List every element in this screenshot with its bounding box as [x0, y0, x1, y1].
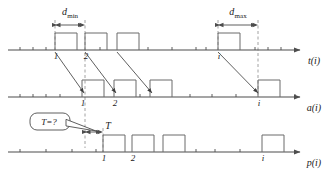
pulse-index-label: i: [258, 98, 261, 108]
dimension-arrowhead-left: [218, 23, 224, 27]
pulse-index-label: i: [262, 153, 265, 163]
diagram-canvas: 12it(i)12ia(i)12ip(i) dmindmaxT T=?: [0, 0, 328, 173]
mapping-arrow: [85, 52, 116, 93]
dimension-d_min: dmin: [55, 6, 85, 27]
pulse-index-label: 1: [102, 153, 107, 163]
mapping-arrow: [55, 52, 84, 93]
dimension-arrowhead-right: [80, 23, 86, 27]
pulse: [114, 80, 136, 97]
pulse: [85, 33, 107, 50]
pulse-index-label: 1: [81, 98, 86, 108]
pulse: [103, 135, 125, 152]
axis-p: 12ip(i): [8, 135, 322, 169]
axis-a: 12ia(i): [8, 80, 322, 114]
axes-group: 12it(i)12ia(i)12ip(i): [8, 33, 322, 169]
axis-t: 12it(i): [8, 33, 321, 67]
axis-label-a: a(i): [307, 102, 322, 114]
pulse: [117, 33, 139, 50]
dimension-arrowhead-left: [55, 23, 61, 27]
dimension-T: T: [85, 120, 112, 134]
pulse-index-label: 2: [131, 153, 136, 163]
pulse: [218, 33, 240, 50]
axis-label-p: p(i): [306, 157, 322, 169]
dimension-arrowhead-right: [98, 130, 104, 134]
timing-diagram-figure: 12it(i)12ia(i)12ip(i) dmindmaxT T=?: [0, 0, 328, 173]
dimension-arrowhead-right: [253, 23, 259, 27]
pulse: [262, 135, 284, 152]
pulse: [258, 80, 280, 97]
dimension-d_max: dmax: [218, 6, 258, 27]
pulse: [163, 135, 185, 152]
callout-group: T=?: [30, 113, 96, 131]
dimension-group: dmindmaxT: [55, 6, 258, 134]
callout-tail: [66, 119, 96, 131]
mapping-arrow: [218, 52, 258, 93]
pulse-index-label: 2: [113, 98, 118, 108]
dimension-label-d_min: dmin: [62, 6, 79, 20]
callout-text: T=?: [41, 117, 57, 127]
dimension-arrowhead-left: [85, 130, 91, 134]
axis-label-t: t(i): [308, 55, 321, 67]
pulse: [55, 33, 77, 50]
dimension-label-d_max: dmax: [229, 6, 247, 20]
dimension-label-T: T: [105, 120, 112, 131]
pulse: [132, 135, 154, 152]
callout-bubble: T=?: [30, 113, 96, 131]
mapping-arrow: [117, 52, 152, 93]
pulse: [150, 80, 172, 97]
